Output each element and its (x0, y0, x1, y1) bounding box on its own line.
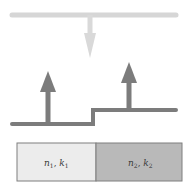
incident-arrow-down-icon (84, 15, 96, 58)
reflected-arrow-right-icon (121, 62, 137, 110)
step-profile-line (12, 110, 176, 124)
reflected-arrow-left-icon (40, 71, 56, 123)
interface-diagram: n1, k1 n2, k2 (0, 0, 191, 190)
